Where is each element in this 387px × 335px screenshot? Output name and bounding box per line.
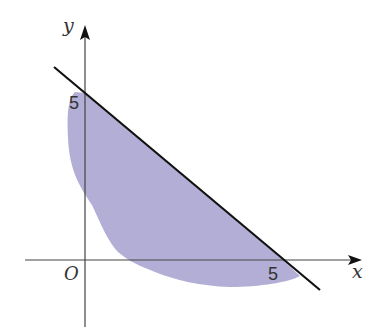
- origin-label: O: [64, 263, 79, 284]
- diagram-canvas: [0, 0, 387, 335]
- x-intercept-label: 5: [268, 264, 278, 285]
- x-axis-label: x: [352, 260, 363, 282]
- y-intercept-label: 5: [69, 93, 79, 114]
- y-axis-label: y: [63, 14, 74, 36]
- shaded-region: [68, 92, 300, 287]
